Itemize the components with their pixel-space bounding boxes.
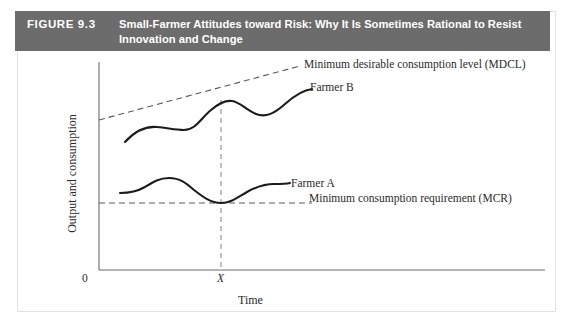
x-axis-label: Time bbox=[238, 293, 263, 308]
mdcl-label: Minimum desirable consumption level (MDC… bbox=[304, 58, 526, 70]
farmer-b-label: Farmer B bbox=[310, 81, 354, 93]
farmer-a-label: Farmer A bbox=[291, 177, 335, 189]
y-axis-label: Output and consumption bbox=[65, 94, 80, 254]
mcr-label: Minimum consumption requirement (MCR) bbox=[309, 192, 512, 204]
figure-container bbox=[17, 11, 556, 312]
figure-header: FIGURE 9.3 Small-Farmer Attitudes toward… bbox=[15, 11, 550, 51]
figure-title: Small-Farmer Attitudes toward Risk: Why … bbox=[119, 17, 550, 46]
x-axis-tick-origin: 0 bbox=[82, 272, 88, 284]
x-axis-tick-x: X bbox=[217, 272, 224, 284]
figure-number-label: FIGURE 9.3 bbox=[15, 17, 119, 31]
